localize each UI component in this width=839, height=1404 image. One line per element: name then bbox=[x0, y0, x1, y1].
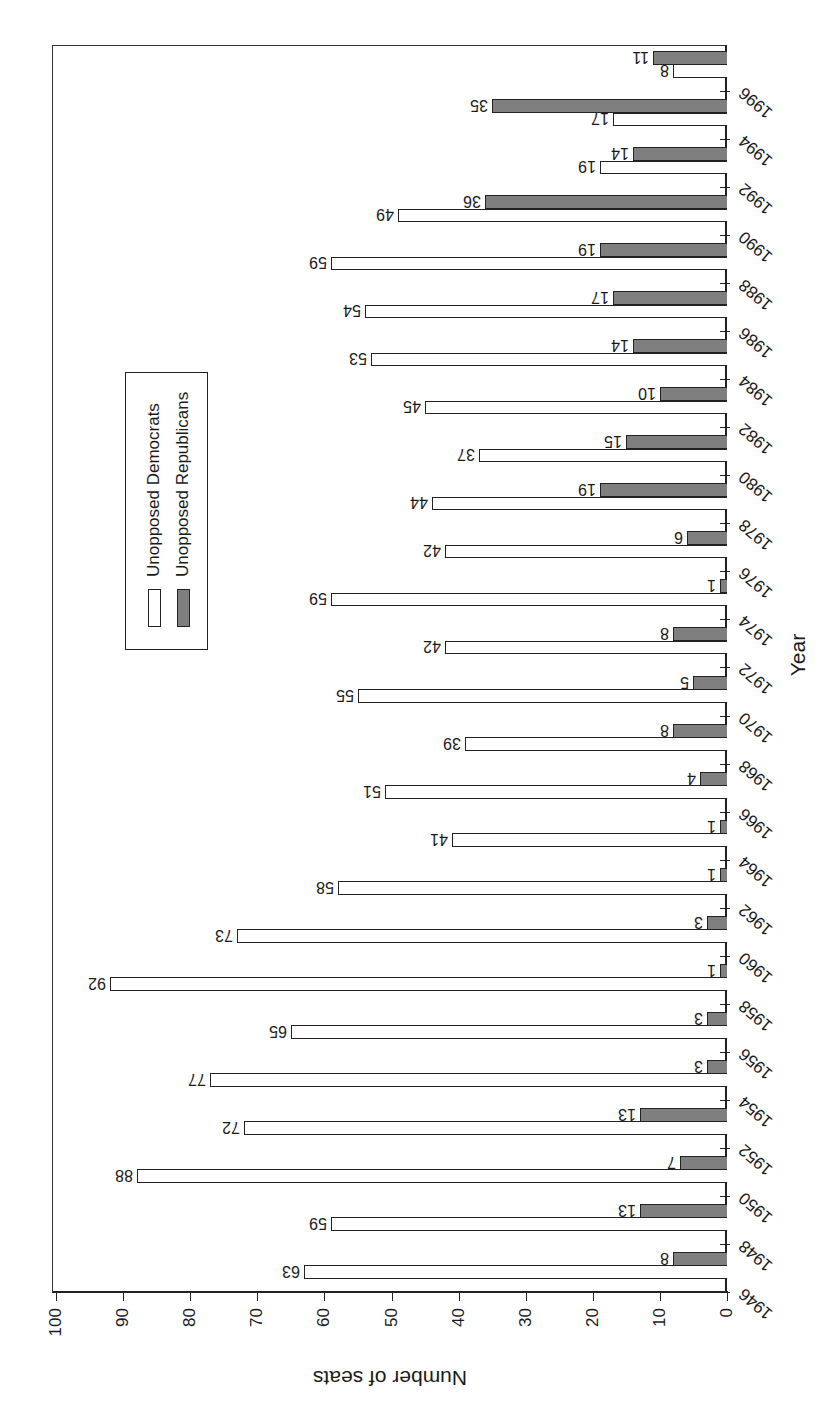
y-tick bbox=[660, 1291, 661, 1301]
y-tick-label: 50 bbox=[382, 1308, 402, 1364]
bar-value-label: 13 bbox=[618, 1201, 636, 1219]
y-tick bbox=[190, 1291, 191, 1301]
bar-republicans bbox=[720, 579, 727, 593]
bar-republicans bbox=[673, 627, 727, 641]
bar-value-label: 1 bbox=[707, 865, 716, 883]
bar-democrats bbox=[331, 257, 727, 271]
bar-value-label: 73 bbox=[215, 926, 233, 944]
legend-label-republicans: Unopposed Republicans bbox=[173, 392, 193, 577]
bar-democrats bbox=[338, 881, 727, 895]
x-axis-title: Year bbox=[786, 634, 810, 676]
bar-value-label: 5 bbox=[681, 673, 690, 691]
bar-democrats bbox=[244, 1121, 727, 1135]
y-tick-label: 20 bbox=[583, 1308, 603, 1364]
bar-republicans bbox=[600, 483, 727, 497]
x-tick bbox=[720, 571, 730, 572]
x-tick-label: 1980 bbox=[735, 467, 778, 508]
bar-democrats bbox=[331, 1217, 727, 1231]
bar-republicans bbox=[680, 1156, 727, 1170]
bar-value-label: 19 bbox=[578, 240, 596, 258]
legend-swatch-democrats bbox=[148, 589, 161, 627]
bar-republicans bbox=[720, 868, 727, 882]
x-tick-label: 1950 bbox=[735, 1188, 778, 1229]
bar-democrats bbox=[210, 1073, 727, 1087]
bar-democrats bbox=[358, 689, 727, 703]
bar-republicans bbox=[720, 964, 727, 978]
x-tick-label: 1982 bbox=[735, 419, 778, 460]
bar-republicans bbox=[633, 339, 727, 353]
x-tick bbox=[720, 1052, 730, 1053]
bar-democrats bbox=[432, 497, 727, 511]
x-tick bbox=[720, 908, 730, 909]
x-tick-label: 1970 bbox=[735, 707, 778, 748]
bar-republicans bbox=[640, 1204, 727, 1218]
y-tick-label: 60 bbox=[314, 1308, 334, 1364]
bar-republicans bbox=[640, 1108, 727, 1122]
bar-value-label: 88 bbox=[115, 1166, 133, 1184]
legend-item-republicans: Unopposed Republicans bbox=[173, 392, 193, 627]
x-tick-label: 1994 bbox=[735, 131, 778, 172]
bar-democrats bbox=[445, 545, 727, 559]
x-tick-label: 1996 bbox=[735, 83, 778, 124]
bar-democrats bbox=[479, 449, 727, 463]
bar-republicans bbox=[613, 291, 727, 305]
bar-value-label: 3 bbox=[694, 1057, 703, 1075]
x-tick-label: 1958 bbox=[735, 995, 778, 1036]
x-tick bbox=[720, 1292, 730, 1293]
bar-value-label: 63 bbox=[282, 1262, 300, 1280]
y-tick-label: 40 bbox=[449, 1308, 469, 1364]
x-tick bbox=[720, 475, 730, 476]
x-tick-label: 1948 bbox=[735, 1236, 778, 1277]
bar-value-label: 44 bbox=[410, 493, 428, 511]
y-tick-label: 80 bbox=[180, 1308, 200, 1364]
bar-democrats bbox=[331, 593, 727, 607]
bar-republicans bbox=[693, 676, 727, 690]
bar-value-label: 77 bbox=[189, 1070, 207, 1088]
bar-republicans bbox=[653, 51, 727, 65]
bar-democrats bbox=[291, 1025, 727, 1039]
y-tick-label: 0 bbox=[717, 1308, 737, 1364]
bar-democrats bbox=[304, 1266, 727, 1280]
x-tick-label: 1984 bbox=[735, 371, 778, 412]
x-tick-label: 1952 bbox=[735, 1140, 778, 1181]
bar-value-label: 1 bbox=[707, 961, 716, 979]
bar-value-label: 14 bbox=[611, 336, 629, 354]
bar-value-label: 59 bbox=[309, 253, 327, 271]
bar-value-label: 65 bbox=[269, 1022, 287, 1040]
legend-swatch-republicans bbox=[177, 589, 190, 627]
bar-democrats bbox=[465, 737, 727, 751]
bar-value-label: 10 bbox=[638, 384, 656, 402]
bar-value-label: 41 bbox=[430, 830, 448, 848]
x-tick bbox=[720, 427, 730, 428]
x-tick bbox=[720, 860, 730, 861]
bar-value-label: 19 bbox=[578, 480, 596, 498]
bar-democrats bbox=[371, 353, 727, 367]
bar-value-label: 1 bbox=[707, 817, 716, 835]
bar-value-label: 36 bbox=[464, 192, 482, 210]
x-tick bbox=[720, 812, 730, 813]
bar-value-label: 39 bbox=[444, 734, 462, 752]
bar-value-label: 11 bbox=[633, 48, 650, 66]
bar-value-label: 17 bbox=[591, 288, 609, 306]
bar-republicans bbox=[720, 820, 727, 834]
x-tick bbox=[720, 1100, 730, 1101]
x-tick bbox=[720, 379, 730, 380]
x-tick bbox=[720, 1148, 730, 1149]
x-tick bbox=[720, 1004, 730, 1005]
bar-republicans bbox=[626, 435, 727, 449]
bar-democrats bbox=[385, 785, 727, 799]
bar-republicans bbox=[700, 772, 727, 786]
x-tick bbox=[720, 956, 730, 957]
y-tick-label: 10 bbox=[650, 1308, 670, 1364]
x-tick bbox=[720, 187, 730, 188]
bar-value-label: 37 bbox=[457, 445, 475, 463]
x-tick-label: 1960 bbox=[735, 947, 778, 988]
x-tick bbox=[720, 1244, 730, 1245]
x-tick bbox=[720, 667, 730, 668]
bar-value-label: 14 bbox=[611, 144, 629, 162]
bar-value-label: 59 bbox=[309, 1214, 327, 1232]
bar-republicans bbox=[673, 1252, 727, 1266]
bar-democrats bbox=[137, 1169, 727, 1183]
x-tick-label: 1964 bbox=[735, 851, 778, 892]
bar-value-label: 42 bbox=[423, 637, 441, 655]
